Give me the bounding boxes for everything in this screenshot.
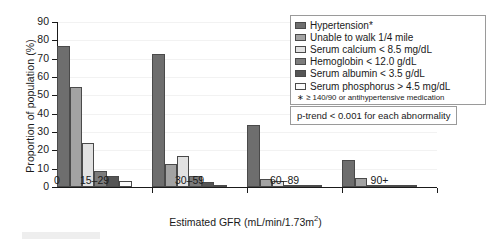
scan-artifact bbox=[22, 232, 100, 239]
y-axis-tick-label: 30 bbox=[37, 125, 49, 137]
y-axis-tick-label: 20 bbox=[37, 143, 49, 155]
y-axis-tick: 90 bbox=[52, 22, 57, 23]
p-trend-annotation: p-trend < 0.001 for each abnormality bbox=[290, 106, 457, 125]
x-axis-tick bbox=[152, 188, 153, 193]
legend-swatch bbox=[295, 34, 306, 41]
legend-label: Serum calcium < 8.5 mg/dL bbox=[310, 44, 432, 55]
legend-swatch bbox=[295, 70, 306, 77]
legend-item: Unable to walk 1/4 mile bbox=[295, 31, 481, 43]
legend-swatch bbox=[295, 46, 306, 53]
legend-item: Hypertension* bbox=[295, 19, 481, 31]
y-axis-tick-label: 60 bbox=[37, 70, 49, 82]
legend-label: Serum phosphorus > 4.5 mg/dL bbox=[310, 81, 450, 92]
legend-label: Serum albumin < 3.5 g/dL bbox=[310, 68, 425, 79]
x-axis-title: Estimated GFR (mL/min/1.73m2) bbox=[0, 214, 491, 228]
legend-swatch bbox=[295, 58, 306, 65]
x-axis-tick-label: 90+ bbox=[340, 174, 420, 186]
x-axis-title-tail: ) bbox=[318, 216, 322, 228]
legend-swatch bbox=[295, 22, 306, 29]
y-axis-tick-label: 50 bbox=[37, 88, 49, 100]
y-axis-tick: 80 bbox=[52, 40, 57, 41]
y-axis-tick-label: 40 bbox=[37, 107, 49, 119]
chart-figure: Proportion of population (%) 01020304050… bbox=[0, 0, 491, 245]
x-axis-tick bbox=[342, 188, 343, 193]
bar-group bbox=[57, 22, 131, 187]
legend-label: Hypertension* bbox=[310, 20, 373, 31]
x-axis-tick-label: 15–29 bbox=[55, 174, 135, 186]
y-axis-tick: 10 bbox=[52, 169, 57, 170]
bar bbox=[152, 54, 164, 187]
x-axis-title-main: Estimated GFR (mL/min/1.73m bbox=[169, 216, 314, 228]
y-axis-tick-label: 70 bbox=[37, 52, 49, 64]
legend-item: Serum albumin < 3.5 g/dL bbox=[295, 68, 481, 80]
y-axis-tick: 40 bbox=[52, 114, 57, 115]
bar-group bbox=[152, 22, 226, 187]
legend-swatch bbox=[295, 83, 306, 90]
y-axis-title: Proportion of population (%) bbox=[24, 16, 36, 196]
bar bbox=[70, 87, 82, 187]
legend-item: Serum calcium < 8.5 mg/dL bbox=[295, 43, 481, 55]
y-axis-tick-label: 90 bbox=[37, 15, 49, 27]
y-axis-tick: 20 bbox=[52, 150, 57, 151]
y-axis-tick-label: 10 bbox=[37, 162, 49, 174]
y-axis-tick: 60 bbox=[52, 77, 57, 78]
legend-label: Hemoglobin < 12.0 g/dL bbox=[310, 56, 416, 67]
y-axis-tick: 50 bbox=[52, 95, 57, 96]
legend-label: Unable to walk 1/4 mile bbox=[310, 32, 413, 43]
y-axis-tick: 30 bbox=[52, 132, 57, 133]
y-axis-tick: 0 bbox=[52, 187, 57, 188]
y-axis-tick-label: 80 bbox=[37, 33, 49, 45]
legend-item: Hemoglobin < 12.0 g/dL bbox=[295, 56, 481, 68]
legend-footnote: ∗ ≥ 140/90 or antihypertensive medicatio… bbox=[295, 93, 481, 102]
x-axis-tick bbox=[247, 188, 248, 193]
legend-item: Serum phosphorus > 4.5 mg/dL bbox=[295, 80, 481, 92]
x-axis-tick bbox=[437, 188, 438, 193]
legend: Hypertension*Unable to walk 1/4 mileSeru… bbox=[290, 15, 486, 105]
x-axis-tick-label: 60–89 bbox=[245, 174, 325, 186]
x-axis-tick-label: 30–59 bbox=[150, 174, 230, 186]
bar bbox=[57, 46, 69, 187]
y-axis-tick: 70 bbox=[52, 59, 57, 60]
